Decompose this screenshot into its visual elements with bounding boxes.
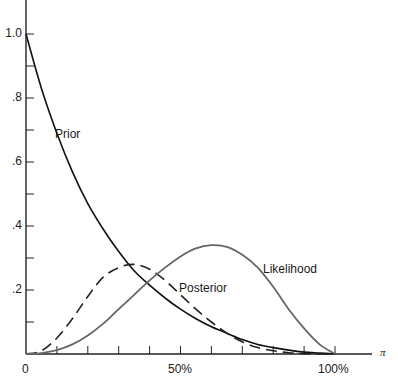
chart-plot-area — [0, 0, 398, 379]
prior-curve — [26, 34, 335, 354]
likelihood-curve-label: Likelihood — [263, 262, 317, 276]
y-tick-label-0.2: .2 — [2, 282, 22, 296]
posterior-curve-label: Posterior — [179, 281, 227, 295]
y-tick-label-0.8: .8 — [2, 90, 22, 104]
y-tick-label-0.4: .4 — [2, 218, 22, 232]
prior-curve-label: Prior — [55, 127, 80, 141]
x-tick-label-100: 100% — [318, 362, 349, 376]
axes — [26, 0, 372, 354]
x-tick-label-50: 50% — [168, 362, 192, 376]
y-tick-label-1.0: 1.0 — [2, 26, 22, 40]
curves — [26, 34, 335, 354]
x-tick-label-0: 0 — [22, 362, 29, 376]
x-axis-symbol-pi: π — [380, 346, 386, 358]
y-tick-label-0.6: .6 — [2, 154, 22, 168]
